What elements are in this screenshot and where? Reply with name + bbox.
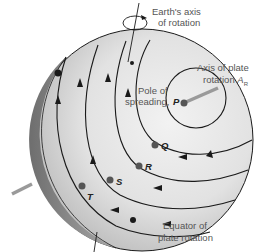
point-label-s: S — [116, 176, 122, 187]
plate-axis-subscript: R — [244, 81, 248, 87]
earth-axis-label-line1: Earth's axis — [152, 7, 201, 17]
point-label-t: T — [87, 191, 93, 202]
pole-label-line1: Pole of — [138, 86, 168, 96]
plate-axis-left-stub — [12, 184, 32, 194]
pole-label-line2: spreading, — [125, 97, 169, 107]
plate-rotation-sphere-diagram — [0, 0, 255, 252]
point-label-q: Q — [161, 140, 168, 151]
equator-label-line1: Equator of — [163, 221, 207, 231]
earth-axis-label-line2: of rotation — [158, 18, 200, 28]
plate-axis-label-line2: rotation AR — [203, 75, 248, 89]
plate-axis-label-text: rotation — [203, 74, 235, 85]
plate-axis-label-line1: Axis of plate — [197, 63, 249, 73]
point-label-p: P — [173, 96, 179, 107]
equator-label-line2: plate rotation — [158, 233, 213, 243]
point-label-r: R — [145, 161, 152, 172]
